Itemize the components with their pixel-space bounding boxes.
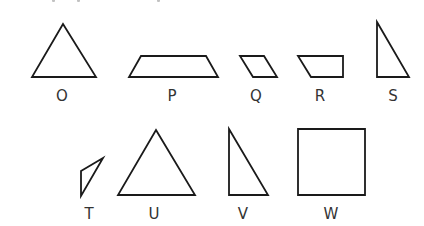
shape-S-right-triangle: [377, 22, 409, 77]
shape-label-Q: Q: [250, 89, 262, 104]
shape-O-triangle: [32, 24, 96, 77]
shape-W-square: [298, 129, 365, 195]
shape-label-T: T: [84, 207, 93, 222]
shape-U-triangle: [118, 130, 195, 195]
shape-label-U: U: [149, 207, 160, 222]
shape-label-O: O: [56, 89, 68, 104]
shapes-figure: [0, 0, 424, 226]
shape-label-S: S: [388, 89, 398, 104]
shape-T-triangle: [81, 158, 103, 196]
shape-R-trapezoid: [298, 56, 343, 77]
shape-label-P: P: [167, 89, 176, 104]
shape-label-V: V: [238, 207, 248, 222]
shape-label-R: R: [315, 89, 325, 104]
shape-label-W: W: [324, 207, 339, 222]
shape-V-right-triangle: [229, 129, 268, 195]
shape-P-trapezoid: [129, 56, 218, 77]
shape-Q-parallelogram: [240, 56, 277, 77]
